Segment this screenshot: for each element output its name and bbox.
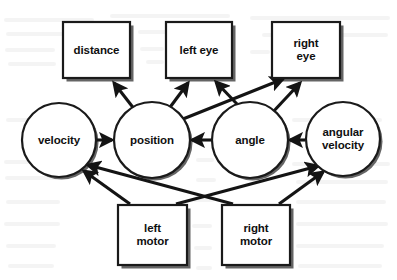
graph-svg	[0, 0, 397, 280]
node-right-eye[interactable]	[272, 22, 340, 78]
node-position[interactable]	[114, 102, 190, 178]
edge-right-motor-to-angular-velocity	[279, 172, 323, 204]
diagram-canvas: distanceleft eyeright eyevelocitypositio…	[0, 0, 397, 280]
node-left-motor[interactable]	[118, 205, 187, 265]
node-layer	[22, 22, 380, 265]
edge-position-to-distance	[114, 83, 135, 110]
node-velocity[interactable]	[22, 103, 96, 177]
node-left-eye[interactable]	[166, 22, 232, 78]
node-right-motor[interactable]	[222, 205, 290, 265]
edge-angle-to-right-eye	[272, 83, 300, 113]
node-distance[interactable]	[63, 22, 130, 78]
node-angle[interactable]	[212, 102, 288, 178]
node-angular-velocity[interactable]	[306, 102, 380, 176]
